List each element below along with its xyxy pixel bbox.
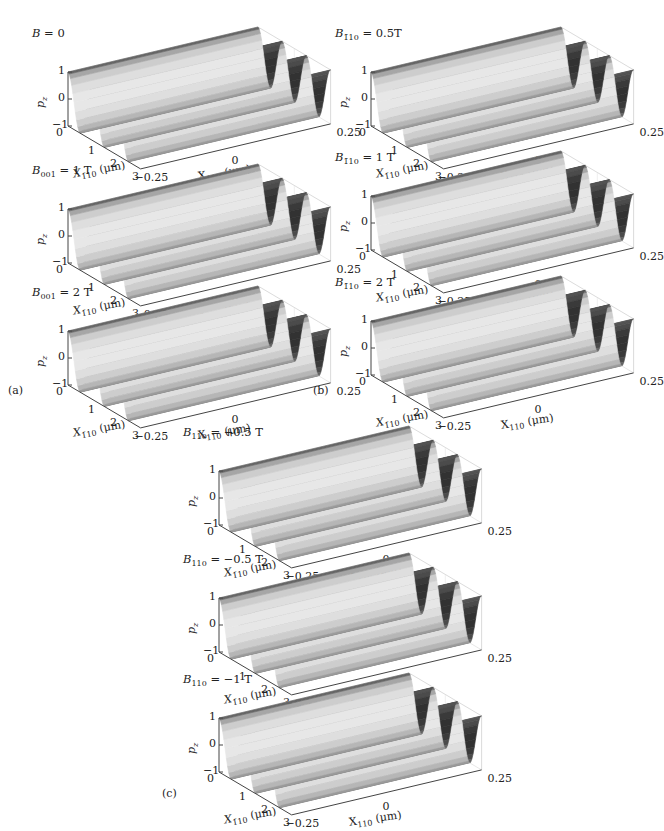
title-value: = 2 T: [56, 285, 92, 299]
x-tick-label: 0: [207, 772, 214, 785]
z-axis-label: pz: [34, 97, 49, 108]
z-tick-label: 1: [209, 710, 216, 723]
plot-title: B1̄10 = 2 T: [335, 275, 394, 291]
y-tick-label: −0.25: [286, 817, 320, 830]
z-axis-subscript: z: [343, 97, 352, 101]
plot-title: B = 0: [32, 26, 65, 42]
plot-title: B110 = −1 T: [183, 672, 252, 688]
y-tick-label: −0.25: [135, 430, 169, 443]
y-tick-label: 0.25: [488, 525, 513, 538]
z-axis-label: pz: [337, 97, 352, 108]
z-axis-subscript: z: [191, 496, 200, 500]
title-subscript: 1̄10: [343, 157, 358, 166]
z-axis-symbol: p: [185, 747, 198, 754]
z-tick-label: 1: [58, 64, 65, 77]
y-tick-label: 0.25: [488, 772, 513, 785]
surface-plot-panel: B1̄10 = 2 T10−1pz0123X1̄10 (μm)−0.2500.2…: [331, 275, 601, 410]
surface-svg: [331, 26, 601, 161]
surface-plot-panel: B001 = 1 T10−1pz0123X1̄10 (μm)−0.2500.25…: [28, 163, 298, 298]
x-tick-label: 0: [207, 652, 214, 665]
surface-svg: [331, 275, 601, 410]
title-subscript: 110: [191, 559, 206, 568]
surface-plot-panel: B001 = 2 T10−1pz0123X1̄10 (μm)−0.2500.25…: [28, 285, 298, 420]
z-axis-subscript: z: [40, 356, 49, 360]
panel-label-c: (c): [162, 787, 177, 800]
z-axis-symbol: p: [337, 225, 350, 232]
surface-svg: [28, 26, 298, 161]
surface-svg: [179, 672, 449, 807]
y-axis-subscript: 110: [356, 819, 372, 830]
plot-title: B1̄10 = 0.5T: [335, 26, 402, 42]
x-axis-label: X1̄10 (μm): [72, 417, 127, 441]
z-tick-label: 0: [361, 340, 368, 353]
title-value: = 1 T: [359, 150, 395, 164]
z-axis-subscript: z: [191, 743, 200, 747]
plot-title: B001 = 1 T: [32, 163, 91, 179]
z-axis-subscript: z: [343, 346, 352, 350]
surface-svg: [179, 552, 449, 687]
z-tick-label: 1: [58, 323, 65, 336]
title-subscript: 110: [191, 432, 206, 441]
plot-title: B110 = +0.5 T: [183, 425, 263, 441]
x-tick-label: 0: [359, 126, 366, 139]
z-axis-symbol: p: [337, 101, 350, 108]
z-axis-label: pz: [337, 346, 352, 357]
z-tick-label: 0: [58, 228, 65, 241]
y-axis-label: X110 (μm): [500, 412, 554, 434]
x-axis-unit: (μm): [95, 417, 126, 435]
z-tick-label: 1: [209, 590, 216, 603]
z-tick-label: 0: [361, 91, 368, 104]
z-tick-label: 1: [361, 64, 368, 77]
x-tick-label: 1: [239, 790, 246, 803]
title-value: = 2 T: [359, 275, 395, 289]
surface-svg: [28, 285, 298, 420]
y-tick-label: 0.25: [640, 126, 664, 139]
surface-svg: [331, 150, 601, 285]
z-axis-label: pz: [185, 496, 200, 507]
y-axis-label: X110 (μm): [348, 809, 402, 831]
y-axis-unit: (μm): [371, 809, 402, 826]
y-axis-symbol: X: [500, 418, 510, 432]
title-subscript: 1̄10: [343, 33, 358, 42]
x-tick-label: 0: [56, 385, 63, 398]
z-axis-subscript: z: [343, 221, 352, 225]
z-axis-symbol: p: [34, 238, 47, 245]
z-tick-label: 0: [209, 737, 216, 750]
y-axis-symbol: X: [348, 815, 358, 829]
surface-plot-panel: B1̄10 = 0.5T10−1pz0123X1̄10 (μm)−0.2500.…: [331, 26, 601, 161]
title-subscript: 110: [191, 679, 206, 688]
z-tick-label: 1: [58, 201, 65, 214]
z-axis-subscript: z: [40, 234, 49, 238]
z-axis-subscript: z: [40, 97, 49, 101]
z-axis-label: pz: [185, 743, 200, 754]
z-axis-symbol: p: [337, 350, 350, 357]
x-tick-label: 1: [88, 144, 95, 157]
z-tick-label: 1: [361, 313, 368, 326]
surface-svg: [179, 425, 449, 560]
z-axis-subscript: z: [191, 623, 200, 627]
y-axis-subscript: 110: [508, 422, 524, 433]
x-axis-unit: (μm): [398, 407, 429, 425]
z-axis-symbol: p: [34, 101, 47, 108]
y-tick-label: 0.25: [640, 375, 664, 388]
z-axis-symbol: p: [185, 500, 198, 507]
z-axis-label: pz: [34, 234, 49, 245]
title-value: = 0: [40, 26, 64, 40]
surface-plot-panel: B110 = −0.5 T10−1pz0123X1̄10 (μm)−0.2500…: [179, 552, 449, 687]
z-tick-label: 0: [209, 617, 216, 630]
title-value: = −1 T: [207, 672, 252, 686]
y-tick-label: 0.25: [488, 652, 513, 665]
surface-plot-panel: B1̄10 = 1 T10−1pz0123X1̄10 (μm)−0.2500.2…: [331, 150, 601, 285]
x-tick-label: 1: [88, 403, 95, 416]
z-tick-label: 1: [209, 463, 216, 476]
surface-plot-panel: B110 = −1 T10−1pz0123X1̄10 (μm)−0.2500.2…: [179, 672, 449, 807]
title-subscript: 1̄10: [343, 282, 358, 291]
x-tick-label: 0: [56, 126, 63, 139]
z-tick-label: 0: [361, 215, 368, 228]
z-axis-label: pz: [34, 356, 49, 367]
x-axis-unit: (μm): [246, 804, 277, 822]
z-axis-symbol: p: [34, 360, 47, 367]
z-tick-label: 1: [361, 188, 368, 201]
surface-plot-panel: B110 = +0.5 T10−1pz0123X1̄10 (μm)−0.2500…: [179, 425, 449, 560]
title-value: = −0.5 T: [207, 552, 263, 566]
